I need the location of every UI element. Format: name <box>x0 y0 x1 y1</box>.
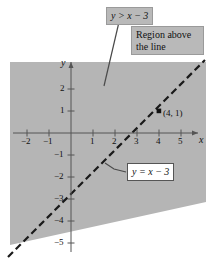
x-tick-label-5: 5 <box>178 136 183 146</box>
point-label-4-1: (4, 1) <box>163 108 183 118</box>
x-tick-label--2: −2 <box>21 136 31 146</box>
y-axis-label: y <box>61 57 65 68</box>
y-tick-label--2: −2 <box>54 171 64 181</box>
y-tick-label--3: −3 <box>54 193 64 203</box>
inequality-graph-figure: y > x − 3 Region above the line y = x − … <box>0 0 213 266</box>
x-tick-label-1: 1 <box>90 136 95 146</box>
x-tick-label--1: −1 <box>43 136 53 146</box>
y-tick-label-2: 2 <box>60 83 65 93</box>
x-tick-label-3: 3 <box>134 136 139 146</box>
y-tick-label-1: 1 <box>60 105 65 115</box>
x-tick-label-2: 2 <box>112 136 117 146</box>
point-marker-4-1 <box>157 109 162 114</box>
x-tick-label-4: 4 <box>156 136 161 146</box>
y-tick-label--5: −5 <box>54 237 64 247</box>
callout-equation: y = x − 3 <box>127 163 174 181</box>
callout-inequality: y > x − 3 <box>106 7 153 25</box>
y-tick-label--4: −4 <box>54 215 64 225</box>
y-tick-label--1: −1 <box>54 149 64 159</box>
callout-region-above-line: Region above the line <box>131 26 204 55</box>
x-axis-label: x <box>199 134 203 145</box>
